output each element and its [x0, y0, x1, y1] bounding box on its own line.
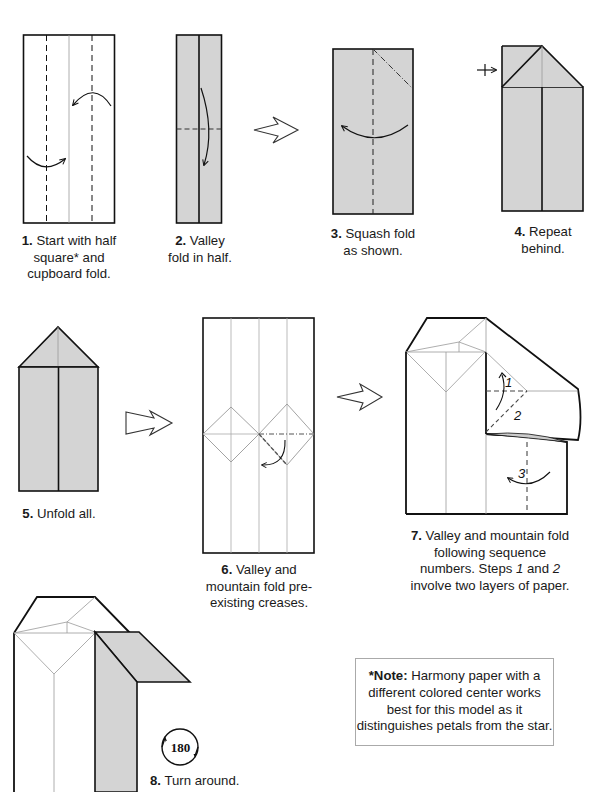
step-number: 1. [22, 233, 33, 248]
step-number: 5. [22, 506, 33, 521]
step5-caption: 5. Unfold all. [0, 506, 118, 523]
caption-line: Start with half [36, 233, 116, 248]
step7-diagram: 1 2 3 [406, 318, 581, 514]
step8-diagram: 180 [14, 597, 198, 792]
step8-caption: 8. Turn around. [150, 773, 270, 790]
sequence-label-1: 1 [505, 375, 512, 390]
step-number: 2. [175, 233, 186, 248]
step4-diagram [477, 46, 583, 211]
caption-line: existing creases. [210, 595, 308, 610]
caption-line: Valley [190, 233, 225, 248]
step4-caption: 4. Repeat behind. [493, 224, 593, 257]
next-arrow-icon [337, 384, 382, 410]
step2-caption: 2. Valley fold in half. [150, 233, 250, 266]
step-number: 8. [150, 773, 161, 788]
caption-line: Unfold all. [37, 506, 96, 521]
step-number: 3. [331, 226, 342, 241]
step-number: 4. [514, 224, 525, 239]
caption-line: involve two layers of paper. [410, 578, 569, 593]
step-number: 7. [411, 528, 422, 543]
caption-line: numbers. Steps [420, 561, 516, 576]
caption-line: fold in half. [168, 250, 232, 265]
next-arrow-icon [126, 411, 172, 435]
caption-line: as shown. [343, 243, 402, 258]
caption-line: Repeat [529, 224, 572, 239]
caption-line: following sequence [434, 545, 546, 560]
caption-line: square* and [33, 250, 104, 265]
caption-line: cupboard fold. [27, 266, 111, 281]
step5-diagram [19, 327, 98, 491]
step1-caption: 1. Start with half square* and cupboard … [0, 233, 138, 283]
step7-caption: 7. Valley and mountain fold following se… [390, 528, 590, 594]
note-label: *Note: [369, 668, 408, 683]
caption-line: mountain fold pre- [206, 579, 312, 594]
caption-line: Turn around. [164, 773, 239, 788]
step3-diagram [333, 49, 413, 214]
next-arrow-icon [254, 117, 298, 143]
step6-caption: 6. Valley and mountain fold pre- existin… [190, 562, 328, 612]
step-number: 6. [221, 562, 232, 577]
note-box: *Note: Harmony paper with a different co… [355, 658, 554, 746]
rotate-180-label: 180 [171, 740, 191, 755]
caption-line: behind. [521, 241, 564, 256]
step3-caption: 3. Squash fold as shown. [318, 226, 428, 259]
sequence-label-3: 3 [518, 466, 526, 481]
caption-line: Valley and mountain fold [426, 528, 569, 543]
step2-diagram [177, 35, 222, 223]
step1-diagram [24, 35, 115, 223]
step6-diagram [203, 318, 314, 553]
sequence-label-2: 2 [513, 408, 522, 423]
caption-line: and [523, 561, 552, 576]
caption-italic: 2 [553, 561, 560, 576]
caption-line: Squash fold [346, 226, 416, 241]
caption-line: Valley and [236, 562, 297, 577]
